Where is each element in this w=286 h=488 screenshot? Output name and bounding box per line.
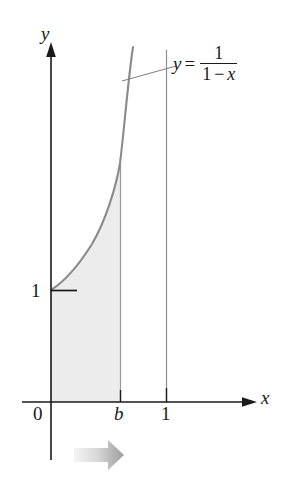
equation-fraction: 1 1−x	[200, 44, 237, 83]
y-tick-label-one: 1	[31, 281, 41, 300]
x-axis-label: x	[261, 388, 269, 407]
equation-relation-sign: =	[184, 54, 195, 73]
fraction-denominator: 1−x	[200, 64, 237, 83]
motion-arrow-right-icon	[74, 440, 124, 470]
origin-tick-label: 0	[33, 404, 43, 423]
y-axis-label: y	[41, 24, 49, 43]
denominator-first-term: 1	[202, 64, 211, 84]
function-graph-figure	[0, 0, 286, 488]
fraction-numerator: 1	[208, 44, 229, 63]
equation-left-side: y	[173, 54, 181, 73]
denominator-minus-sign: −	[214, 64, 224, 84]
y-axis-arrowhead-icon	[46, 42, 56, 57]
denominator-variable: x	[227, 64, 235, 84]
x-tick-label-one: 1	[161, 404, 171, 423]
x-axis-arrowhead-icon	[242, 397, 257, 407]
x-tick-label-b: b	[114, 404, 124, 423]
curve-equation-label: y = 1 1−x	[173, 44, 237, 83]
